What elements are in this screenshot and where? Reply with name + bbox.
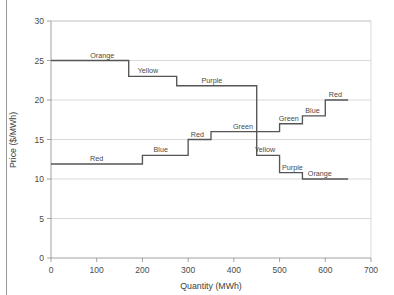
y-tick-label-20: 20 — [35, 95, 45, 105]
step-label-curve-supply-2: Blue — [154, 145, 168, 154]
x-tick-label-600: 600 — [318, 265, 332, 275]
y-tick-label-10: 10 — [35, 174, 45, 184]
step-label-curve-supply-5: Green — [279, 114, 299, 123]
y-tick-label-0: 0 — [39, 253, 44, 263]
y-tick-label-5: 5 — [39, 214, 44, 224]
x-axis-title: Quantity (MWh) — [180, 281, 242, 291]
step-label-curve-supply-1: Red — [90, 154, 103, 163]
y-tick-label-30: 30 — [35, 16, 45, 26]
x-axis-ticks: 0100200300400500600700 — [49, 258, 379, 275]
chart-figure: 051015202530 0100200300400500600700 Oran… — [0, 0, 394, 295]
y-axis-ticks: 051015202530 — [35, 16, 51, 263]
x-tick-label-100: 100 — [90, 265, 104, 275]
step-label-curve-demand-2: Yellow — [138, 66, 159, 75]
step-label-curve-supply-7: Red — [329, 90, 342, 99]
step-label-curve-supply-4: Green — [233, 122, 253, 131]
step-label-curve-supply-3: Red — [191, 130, 204, 139]
y-tick-label-15: 15 — [35, 135, 45, 145]
y-axis-title: Price ($/MWh) — [8, 112, 18, 168]
x-tick-label-700: 700 — [364, 265, 378, 275]
x-tick-label-200: 200 — [135, 265, 149, 275]
x-tick-label-0: 0 — [49, 265, 54, 275]
step-label-curve-demand-4: Yellow — [255, 145, 276, 154]
x-tick-label-300: 300 — [181, 265, 195, 275]
step-label-curve-demand-6: Orange — [308, 169, 332, 178]
y-tick-label-25: 25 — [35, 56, 45, 66]
step-label-curve-supply-6: Blue — [305, 106, 319, 115]
step-labels-group: OrangeYellowPurpleYellowPurpleOrangeRedB… — [90, 51, 342, 179]
x-tick-label-500: 500 — [272, 265, 286, 275]
step-label-curve-demand-3: Purple — [202, 76, 223, 85]
page-left-rule — [6, 0, 7, 295]
x-tick-label-400: 400 — [227, 265, 241, 275]
supply-demand-step-chart: 051015202530 0100200300400500600700 Oran… — [0, 0, 394, 295]
step-label-curve-demand-1: Orange — [90, 51, 114, 60]
step-label-curve-demand-5: Purple — [282, 163, 303, 172]
